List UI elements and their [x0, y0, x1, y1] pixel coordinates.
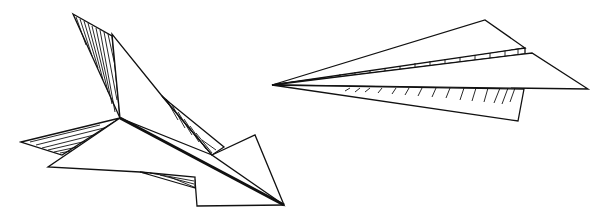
paper-airplane-right [272, 20, 588, 121]
illustration [0, 0, 608, 215]
paper-airplane-left [21, 14, 284, 206]
right-plane-keel [272, 85, 524, 121]
